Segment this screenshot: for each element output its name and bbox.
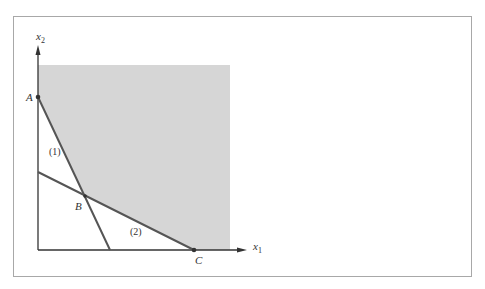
point-a [36, 95, 41, 100]
point-b [83, 194, 87, 198]
y-axis-arrow-icon [36, 45, 41, 55]
y-axis-label: x2 [35, 30, 45, 45]
point-c-label: C [195, 254, 203, 266]
point-c [192, 248, 197, 253]
x-axis-arrow-icon [237, 248, 247, 253]
constraint-1-label: (1) [49, 146, 61, 158]
constraint-2-label: (2) [130, 226, 142, 238]
x-axis-label: x1 [252, 240, 262, 255]
point-a-label: A [25, 91, 33, 103]
point-b-label: B [75, 200, 82, 212]
lp-diagram: x2 x1 A B C (1) (2) [0, 0, 485, 289]
